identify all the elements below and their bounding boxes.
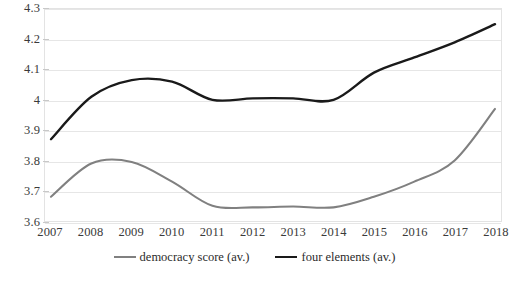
plot-area bbox=[44, 8, 502, 222]
y-tick-mark bbox=[43, 222, 49, 223]
gridline bbox=[45, 223, 501, 224]
x-tick-label: 2010 bbox=[159, 226, 184, 240]
y-tick-label: 4.1 bbox=[0, 63, 40, 76]
y-tick-label: 3.7 bbox=[0, 185, 40, 198]
x-tick-label: 2018 bbox=[483, 226, 508, 240]
y-tick-mark bbox=[43, 8, 49, 9]
y-axis: 4.34.24.143.93.83.73.6 bbox=[0, 8, 40, 222]
y-tick-label: 4.2 bbox=[0, 32, 40, 45]
series-line-0 bbox=[51, 109, 495, 208]
legend-item[interactable]: four elements (av.) bbox=[275, 251, 395, 264]
y-tick-label: 3.8 bbox=[0, 155, 40, 168]
series-layer bbox=[45, 9, 501, 221]
y-tick-label: 4 bbox=[0, 93, 40, 106]
x-tick-label: 2016 bbox=[402, 226, 427, 240]
x-tick-label: 2009 bbox=[118, 226, 143, 240]
y-tick-mark bbox=[43, 100, 49, 101]
y-tick-label: 4.3 bbox=[0, 2, 40, 15]
x-tick-label: 2008 bbox=[78, 226, 103, 240]
x-tick-label: 2007 bbox=[37, 226, 62, 240]
x-tick-label: 2014 bbox=[321, 226, 346, 240]
legend-item[interactable]: democracy score (av.) bbox=[114, 251, 250, 264]
y-tick-mark bbox=[43, 69, 49, 70]
x-axis: 2007200820092010201120122013201420152016… bbox=[44, 226, 502, 244]
x-tick-label: 2012 bbox=[240, 226, 265, 240]
legend-label: four elements (av.) bbox=[301, 251, 395, 264]
line-chart: 4.34.24.143.93.83.73.6 20072008200920102… bbox=[0, 0, 509, 283]
x-tick-label: 2015 bbox=[362, 226, 387, 240]
y-tick-mark bbox=[43, 161, 49, 162]
x-tick-label: 2013 bbox=[281, 226, 306, 240]
y-tick-label: 3.9 bbox=[0, 124, 40, 137]
y-tick-mark bbox=[43, 191, 49, 192]
y-tick-mark bbox=[43, 39, 49, 40]
series-line-1 bbox=[51, 24, 495, 139]
legend-line-swatch-icon bbox=[114, 256, 136, 258]
legend-label: democracy score (av.) bbox=[140, 251, 250, 264]
x-tick-label: 2011 bbox=[200, 226, 225, 240]
y-tick-mark bbox=[43, 130, 49, 131]
x-tick-label: 2017 bbox=[443, 226, 468, 240]
y-tick-label: 3.6 bbox=[0, 216, 40, 229]
chart-legend: democracy score (av.)four elements (av.) bbox=[0, 251, 509, 264]
legend-line-swatch-icon bbox=[275, 256, 297, 258]
